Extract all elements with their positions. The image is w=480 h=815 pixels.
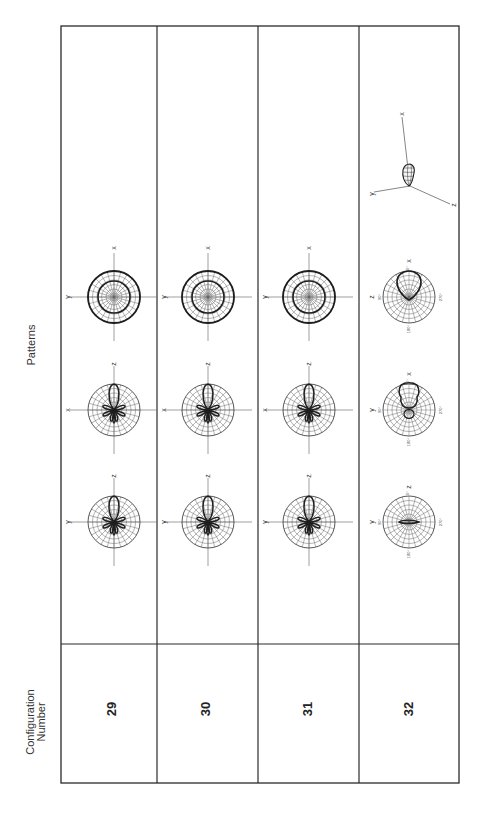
svg-text:0°: 0° xyxy=(405,266,410,270)
svg-text:270°: 270° xyxy=(438,292,443,301)
pattern-29-yx xyxy=(70,253,158,341)
axis-label-x: x xyxy=(160,408,167,412)
svg-text:180°: 180° xyxy=(406,324,411,333)
axis-label-y: y xyxy=(368,520,376,524)
pattern-plots: 0° 90° 180° 270° 0° 90° 180° 270° 0° 90° xyxy=(0,0,480,815)
axis-label-x: x xyxy=(398,112,405,116)
svg-text:180°: 180° xyxy=(406,549,411,558)
pattern-31-yx xyxy=(265,253,353,341)
svg-text:270°: 270° xyxy=(438,517,443,526)
axis-label-x: x xyxy=(204,246,211,250)
pattern-32-yx-notched: 0° 90° 180° 270° xyxy=(377,379,443,446)
axis-label-x: x xyxy=(261,408,268,412)
axis-label-x: x xyxy=(405,372,412,376)
axis-label-y: y xyxy=(160,520,168,524)
pattern-29-xz xyxy=(70,366,158,454)
pattern-29-yz xyxy=(70,478,158,566)
axis-label-x: x xyxy=(305,246,312,250)
document-page: Configuration Number Patterns 29 30 31 3… xyxy=(0,0,480,815)
axis-label-x: x xyxy=(405,259,412,263)
axis-label-x: x xyxy=(64,408,71,412)
axis-label-y: y xyxy=(368,192,376,196)
pattern-32-3d-lobe xyxy=(374,117,450,204)
pattern-32-zx-cardioid: 0° 90° 180° 270° xyxy=(377,266,443,333)
pattern-30-xz xyxy=(164,366,252,454)
svg-text:180°: 180° xyxy=(406,437,411,446)
pattern-31-yz xyxy=(265,478,353,566)
axis-label-z: z xyxy=(204,474,211,478)
svg-text:270°: 270° xyxy=(438,405,443,414)
axis-label-y: y xyxy=(64,520,72,524)
svg-text:90°: 90° xyxy=(377,407,382,413)
axis-label-y: y xyxy=(261,295,269,299)
axis-label-z: z xyxy=(368,295,375,299)
axis-label-y: y xyxy=(64,295,72,299)
pattern-32-yz-flat: 0° 90° 180° 270° xyxy=(377,491,443,558)
svg-text:90°: 90° xyxy=(377,294,382,300)
axis-label-y: y xyxy=(368,408,376,412)
axis-label-z: z xyxy=(110,474,117,478)
svg-text:0°: 0° xyxy=(405,491,410,495)
axis-label-z: z xyxy=(305,474,312,478)
pattern-30-yx xyxy=(164,253,252,341)
axis-label-z: z xyxy=(450,203,457,207)
axis-label-y: y xyxy=(160,295,168,299)
axis-label-y: y xyxy=(261,520,269,524)
svg-text:90°: 90° xyxy=(377,519,382,525)
axis-label-z: z xyxy=(110,362,117,366)
axis-label-z: z xyxy=(405,485,412,489)
pattern-30-yz xyxy=(164,478,252,566)
axis-label-x: x xyxy=(110,246,117,250)
axis-label-z: z xyxy=(305,362,312,366)
axis-label-z: z xyxy=(204,362,211,366)
pattern-31-xz xyxy=(265,366,353,454)
svg-text:0°: 0° xyxy=(405,379,410,383)
